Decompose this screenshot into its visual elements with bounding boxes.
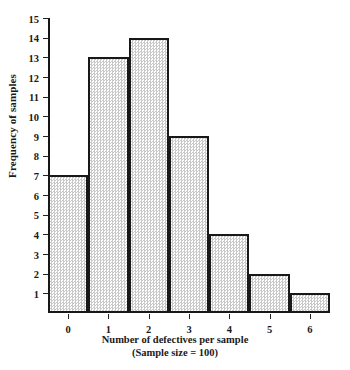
- bar-4: [209, 234, 249, 313]
- y-tick-label-13: 13: [29, 52, 40, 63]
- bar-1: [88, 57, 128, 313]
- y-tick-label-11: 11: [29, 92, 39, 103]
- x-tick-3: [189, 314, 190, 319]
- y-tick-label-15: 15: [29, 13, 40, 24]
- histogram-figure: Frequency of samples 1234567891011121314…: [0, 0, 350, 370]
- x-tick-2: [149, 314, 150, 319]
- x-tick-0: [68, 314, 69, 319]
- y-axis-title: Frequency of samples: [6, 26, 18, 226]
- y-tick-label-7: 7: [34, 170, 39, 181]
- bar-series: [48, 18, 330, 313]
- y-tick-label-10: 10: [29, 111, 40, 122]
- plot-area: 123456789101112131415 0123456: [48, 18, 330, 313]
- bar-5: [249, 274, 289, 313]
- x-axis-title: Number of defectives per sample: [0, 333, 350, 346]
- bar-2: [129, 38, 169, 313]
- y-tick-label-12: 12: [29, 72, 40, 83]
- x-axis-caption: Number of defectives per sample (Sample …: [0, 333, 350, 359]
- y-tick-label-8: 8: [34, 151, 39, 162]
- y-tick-label-3: 3: [34, 249, 39, 260]
- y-tick-label-9: 9: [34, 131, 39, 142]
- x-axis-subtitle: (Sample size = 100): [0, 346, 350, 359]
- x-tick-6: [310, 314, 311, 319]
- y-tick-label-4: 4: [34, 229, 39, 240]
- y-tick-label-2: 2: [34, 269, 39, 280]
- bar-3: [169, 136, 209, 313]
- x-tick-1: [108, 314, 109, 319]
- y-tick-label-1: 1: [34, 288, 39, 299]
- x-tick-5: [270, 314, 271, 319]
- y-tick-label-5: 5: [34, 210, 39, 221]
- x-tick-4: [229, 314, 230, 319]
- bar-0: [48, 175, 88, 313]
- bar-6: [290, 293, 330, 313]
- y-tick-label-6: 6: [34, 190, 39, 201]
- y-tick-label-14: 14: [29, 33, 40, 44]
